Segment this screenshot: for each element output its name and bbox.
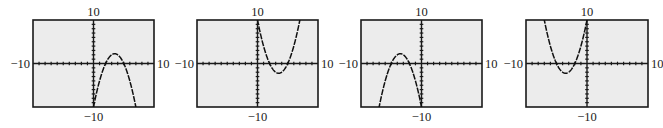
ymax-label: 10 bbox=[87, 5, 100, 19]
ymin-label: −10 bbox=[84, 110, 104, 124]
xmin-label: −10 bbox=[10, 57, 30, 71]
ymax-label: 10 bbox=[415, 5, 428, 19]
xmax-label: 10 bbox=[157, 57, 170, 71]
ymin-label: −10 bbox=[577, 110, 597, 124]
xmin-label: −10 bbox=[503, 57, 523, 71]
graph-panel-2: 10−10−1010 bbox=[174, 0, 333, 124]
graph-panel-3: 10−10−1010 bbox=[338, 5, 497, 128]
xmax-label: 10 bbox=[651, 57, 663, 71]
ymax-label: 10 bbox=[581, 5, 594, 19]
calculator-graphs-figure: 10−10−101010−10−101010−10−101010−10−1010 bbox=[0, 0, 663, 128]
ymax-label: 10 bbox=[251, 5, 264, 19]
ymin-label: −10 bbox=[248, 110, 268, 124]
graph-panel-4: 10−10−1010 bbox=[503, 0, 663, 124]
graph-panel-1: 10−10−1010 bbox=[10, 5, 169, 128]
xmax-label: 10 bbox=[321, 57, 334, 71]
xmin-label: −10 bbox=[174, 57, 194, 71]
xmax-label: 10 bbox=[485, 57, 498, 71]
ymin-label: −10 bbox=[412, 110, 432, 124]
xmin-label: −10 bbox=[338, 57, 358, 71]
